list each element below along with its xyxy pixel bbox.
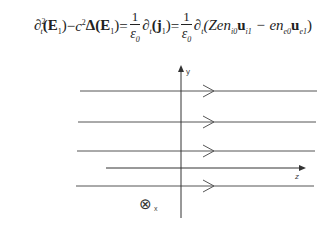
arrow-right-icon: [299, 165, 306, 171]
z-axis-label: z: [295, 172, 299, 181]
equation-line: ∂2t (E1) − c2 Δ(E1) = 1 ε0 ∂t (j1) = 1 ε…: [34, 10, 312, 44]
maxwell-wave-equation: ∂2t (E1) − c2 Δ(E1) = 1 ε0 ∂t (j1) = 1 ε…: [0, 0, 327, 50]
partial-t: ∂t: [142, 17, 152, 36]
c-squared: c2: [75, 18, 86, 35]
y-axis-label: y: [186, 67, 190, 76]
current-j1: (j1): [152, 17, 171, 36]
y-axis: [178, 65, 184, 218]
diagram-canvas: [0, 50, 327, 228]
laplacian-term: Δ(E1): [86, 17, 119, 36]
fraction-1-over-epsilon0: 1 ε0: [130, 10, 141, 44]
z-axis: [106, 165, 306, 171]
field-lines: [76, 85, 317, 192]
fraction-2-over-epsilon0: 1 ε0: [181, 10, 192, 44]
partial-t-2: ∂t: [194, 17, 204, 36]
minus-sign: −: [67, 18, 75, 35]
current-expansion: (Zeni0ui1 − ene0ue1): [203, 17, 312, 36]
partial-t-squared: ∂2t: [34, 17, 43, 36]
field-line-diagram: y z ⊗ x: [0, 50, 327, 228]
x-axis-label: x: [154, 205, 158, 212]
e1-term: (E1): [43, 17, 67, 36]
equals-sign-2: =: [171, 18, 179, 35]
into-page-x-icon: ⊗: [139, 195, 152, 213]
arrow-up-icon: [178, 65, 184, 72]
equals-sign-1: =: [119, 18, 127, 35]
